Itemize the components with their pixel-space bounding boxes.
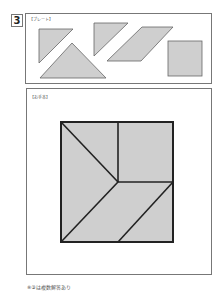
puzzle-figures [0, 0, 223, 298]
plate-pieces [39, 23, 202, 78]
example-figure [61, 122, 173, 242]
footnote: ※③は複数解答あり [27, 283, 71, 290]
square [168, 41, 202, 76]
